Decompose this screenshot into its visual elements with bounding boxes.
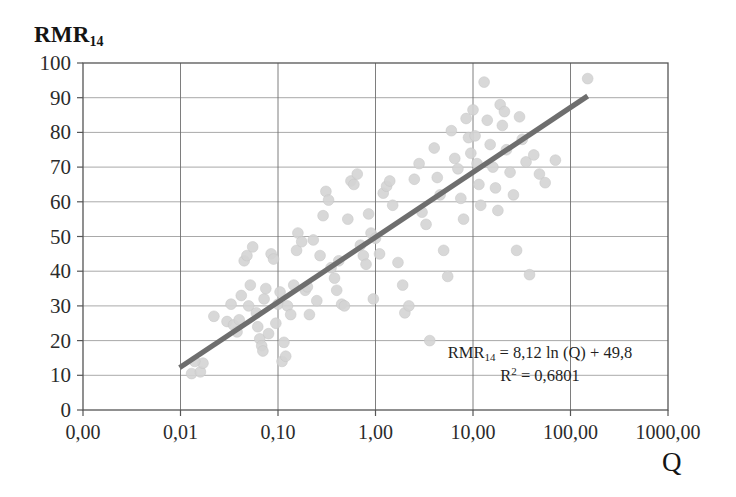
scatter-point: [397, 280, 408, 291]
scatter-point: [342, 214, 353, 225]
scatter-point: [252, 321, 263, 332]
scatter-point: [497, 120, 508, 131]
scatter-point: [304, 309, 315, 320]
scatter-point: [479, 77, 490, 88]
scatter-point: [550, 155, 561, 166]
scatter-point: [384, 176, 395, 187]
scatter-point: [352, 169, 363, 180]
scatter-point: [257, 346, 268, 357]
scatter-point: [280, 351, 291, 362]
y-tick-label: 90: [50, 86, 71, 110]
equation-lhs-base: RMR: [448, 343, 485, 362]
scatter-point: [461, 113, 472, 124]
y-axis-ticks: [77, 63, 83, 410]
y-tick-label: 70: [50, 155, 71, 179]
scatter-point: [308, 235, 319, 246]
scatter-point: [470, 130, 481, 141]
scatter-point: [475, 200, 486, 211]
r-squared-value: R2 = 0,6801: [425, 365, 655, 388]
y-tick-label: 40: [50, 259, 71, 283]
scatter-point: [421, 219, 432, 230]
scatter-point: [245, 280, 256, 291]
chart-figure: RMR14 0102030405060708090100 0,000,010,1…: [0, 0, 736, 497]
x-tick-label: 0,01: [163, 421, 198, 443]
y-tick-label: 100: [40, 51, 72, 75]
x-axis-tick-labels: 0,000,010,101,0010,00100,001000,00: [66, 421, 701, 443]
scatter-point: [361, 259, 372, 270]
scatter-point: [363, 209, 374, 220]
scatter-point: [315, 250, 326, 261]
trendline-segment: [180, 96, 588, 368]
scatter-plot: 0102030405060708090100 0,000,010,101,001…: [0, 0, 736, 497]
scatter-point: [508, 189, 519, 200]
scatter-point: [524, 269, 535, 280]
regression-annotation: RMR14 = 8,12 ln (Q) + 49,8 R2 = 0,6801: [425, 342, 655, 388]
scatter-point: [490, 183, 501, 194]
scatter-point: [368, 294, 379, 305]
scatter-point: [409, 174, 420, 185]
scatter-point: [318, 210, 329, 221]
scatter-point: [528, 150, 539, 161]
scatter-point: [432, 172, 443, 183]
scatter-point: [263, 328, 274, 339]
scatter-point: [540, 177, 551, 188]
regression-trendline: [180, 96, 588, 368]
x-axis-ticks: [83, 410, 668, 416]
scatter-point: [285, 309, 296, 320]
equation-lhs-subscript: 14: [484, 351, 495, 363]
x-tick-label: 10,00: [451, 421, 496, 443]
scatter-point: [492, 205, 503, 216]
r-squared-number: = 0,6801: [517, 366, 580, 385]
scatter-point: [247, 242, 258, 253]
scatter-point: [236, 290, 247, 301]
scatter-point: [474, 179, 485, 190]
scatter-point: [403, 301, 414, 312]
y-tick-label: 10: [50, 363, 71, 387]
x-tick-label: 0,00: [66, 421, 101, 443]
y-tick-label: 30: [50, 294, 71, 318]
scatter-point: [442, 271, 453, 282]
scatter-point: [329, 273, 340, 284]
scatter-point: [582, 73, 593, 84]
scatter-point: [270, 318, 281, 329]
x-tick-label: 1000,00: [636, 421, 701, 443]
y-tick-label: 50: [50, 225, 71, 249]
scatter-point: [514, 111, 525, 122]
x-axis-label: Q: [662, 447, 682, 478]
scatter-point: [268, 254, 279, 265]
scatter-point: [438, 245, 449, 256]
scatter-point: [311, 295, 322, 306]
scatter-point: [226, 299, 237, 310]
regression-equation: RMR14 = 8,12 ln (Q) + 49,8: [425, 342, 655, 365]
scatter-point: [339, 301, 350, 312]
scatter-point: [323, 195, 334, 206]
scatter-point: [485, 139, 496, 150]
y-axis-tick-labels: 0102030405060708090100: [40, 51, 72, 422]
scatter-point: [455, 193, 466, 204]
scatter-point: [452, 163, 463, 174]
scatter-point: [393, 257, 404, 268]
y-tick-label: 20: [50, 329, 71, 353]
scatter-point: [387, 200, 398, 211]
scatter-point: [499, 106, 510, 117]
scatter-point: [260, 283, 271, 294]
scatter-point: [429, 143, 440, 154]
scatter-point: [482, 115, 493, 126]
x-tick-label: 100,00: [543, 421, 598, 443]
scatter-point: [331, 285, 342, 296]
scatter-point: [279, 337, 290, 348]
equation-rhs: = 8,12 ln (Q) + 49,8: [495, 343, 632, 362]
y-tick-label: 0: [61, 398, 72, 422]
scatter-point: [465, 148, 476, 159]
scatter-point: [449, 153, 460, 164]
scatter-point: [458, 214, 469, 225]
x-tick-label: 0,10: [261, 421, 296, 443]
scatter-point: [296, 236, 307, 247]
scatter-point: [446, 125, 457, 136]
y-tick-label: 60: [50, 190, 71, 214]
scatter-point: [468, 104, 479, 115]
scatter-point: [511, 245, 522, 256]
scatter-point: [414, 158, 425, 169]
scatter-point: [259, 294, 270, 305]
y-tick-label: 80: [50, 120, 71, 144]
